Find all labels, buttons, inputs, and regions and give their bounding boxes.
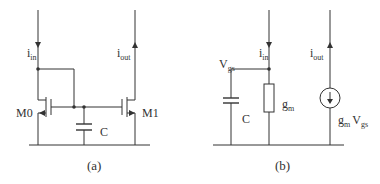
label-gm-vgs: gmVgs	[338, 113, 368, 129]
junction-dot	[267, 67, 271, 71]
source-arrow-down-icon	[327, 99, 333, 104]
m1-source-arrow-icon	[129, 110, 135, 116]
circuit-diagram: iin iout M0 M1 C (a) iin iout Vgs C gm g…	[0, 0, 380, 184]
label-m1: M1	[142, 106, 159, 120]
junction-dot	[72, 105, 76, 109]
label-vgs: Vgs	[219, 57, 235, 73]
junction-dot	[82, 105, 86, 109]
arrow-up-icon	[132, 42, 138, 48]
label-iout-a: iout	[117, 46, 131, 62]
arrow-down-icon	[35, 42, 41, 48]
label-iin-b: iin	[259, 46, 269, 62]
label-iin-a: iin	[27, 46, 37, 62]
caption-a: (a)	[87, 158, 101, 173]
mirror-circuit-a	[29, 10, 150, 145]
label-gm: gm	[282, 97, 295, 113]
arrow-down-icon	[266, 42, 272, 48]
resistor-gm	[264, 84, 274, 112]
junction-dot	[36, 67, 40, 71]
arrow-up-icon	[327, 42, 333, 48]
wire-diode-connection	[38, 69, 74, 107]
label-iout-b: iout	[310, 46, 324, 62]
label-c-b: C	[242, 112, 250, 126]
small-signal-circuit-b	[213, 10, 344, 145]
m0-source-arrow-icon	[39, 110, 45, 116]
label-c-a: C	[100, 125, 108, 139]
wire-vgs-node	[231, 69, 269, 98]
label-m0: M0	[16, 106, 33, 120]
caption-b: (b)	[275, 158, 290, 173]
